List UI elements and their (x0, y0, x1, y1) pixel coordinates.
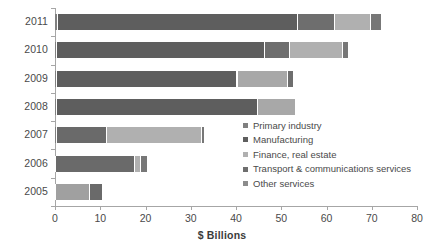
x-axis-tick (191, 206, 192, 210)
bar-segment[interactable] (371, 14, 381, 30)
x-axis-tick (146, 206, 147, 210)
chart-legend: Primary industryManufacturingFinance, re… (243, 118, 411, 191)
x-axis-tick-label: 60 (321, 212, 333, 224)
x-axis-tick (372, 206, 373, 210)
y-axis-category-label: 2010 (24, 43, 48, 55)
bar-segment[interactable] (57, 127, 107, 143)
y-axis-category-label: 2006 (24, 157, 48, 169)
legend-item-label: Transport & communications services (253, 164, 411, 174)
bar-segment[interactable] (238, 71, 288, 87)
y-axis-tick (51, 36, 55, 37)
y-axis-category-label: 2007 (24, 128, 48, 140)
y-axis-tick (51, 93, 55, 94)
legend-swatch-icon (243, 152, 248, 157)
y-axis-tick (51, 8, 55, 9)
x-axis-tick-label: 70 (366, 212, 378, 224)
bar-segment[interactable] (90, 184, 102, 200)
bar-segment[interactable] (298, 14, 335, 30)
legend-item[interactable]: Other services (243, 176, 411, 191)
legend-item-label: Manufacturing (253, 135, 313, 145)
x-axis-tick (417, 206, 418, 210)
y-axis-category-label: 2011 (25, 15, 48, 27)
y-axis-category-label: 2009 (24, 72, 48, 84)
bar-segment[interactable] (107, 127, 202, 143)
x-axis-tick (55, 206, 56, 210)
legend-swatch-icon (243, 137, 248, 142)
legend-item[interactable]: Finance, real estate (243, 147, 411, 162)
x-axis-tick-label: 10 (94, 212, 106, 224)
bar-segment[interactable] (56, 184, 89, 200)
x-axis-tick (100, 206, 101, 210)
bar-segment[interactable] (56, 156, 135, 172)
x-axis-title: $ Billions (0, 229, 430, 241)
stacked-bar[interactable] (55, 156, 147, 172)
bar-segment[interactable] (258, 99, 295, 115)
legend-item-label: Finance, real estate (253, 150, 336, 160)
stacked-bar[interactable] (55, 42, 348, 58)
stacked-bar[interactable] (55, 14, 381, 30)
legend-swatch-icon (243, 181, 248, 186)
bar-segment[interactable] (57, 71, 237, 87)
x-axis-title-label: $ Billions (198, 229, 247, 241)
stacked-bar[interactable] (55, 99, 295, 115)
bar-segment[interactable] (58, 14, 298, 30)
stacked-bar-chart: 2011201020092008200720062005 01020304050… (0, 0, 430, 247)
bar-segment[interactable] (202, 127, 205, 143)
bar-segment[interactable] (57, 99, 257, 115)
x-axis-tick-label: 40 (230, 212, 242, 224)
legend-item-label: Other services (253, 179, 314, 189)
y-axis-category-label: 2008 (24, 100, 48, 112)
stacked-bar[interactable] (55, 184, 102, 200)
x-axis-tick-label: 50 (275, 212, 287, 224)
y-axis-tick (51, 121, 55, 122)
legend-item[interactable]: Transport & communications services (243, 162, 411, 177)
legend-item[interactable]: Manufacturing (243, 133, 411, 148)
x-axis-tick-label: 80 (411, 212, 423, 224)
x-axis-tick-label: 30 (185, 212, 197, 224)
bar-segment[interactable] (288, 71, 293, 87)
x-axis-tick (281, 206, 282, 210)
stacked-bar[interactable] (55, 127, 204, 143)
bar-segment[interactable] (335, 14, 371, 30)
bar-segment[interactable] (57, 42, 265, 58)
y-axis-tick (51, 178, 55, 179)
x-axis-tick (327, 206, 328, 210)
bar-segment[interactable] (265, 42, 290, 58)
x-axis-tick (236, 206, 237, 210)
bar-segment[interactable] (290, 42, 343, 58)
legend-item-label: Primary industry (253, 121, 322, 131)
y-axis-category-label: 2005 (24, 185, 48, 197)
stacked-bar[interactable] (55, 71, 293, 87)
bar-segment[interactable] (141, 156, 146, 172)
legend-item[interactable]: Primary industry (243, 118, 411, 133)
y-axis-tick (51, 149, 55, 150)
x-axis-tick-label: 0 (52, 212, 58, 224)
legend-swatch-icon (243, 167, 248, 172)
x-axis-tick-label: 20 (140, 212, 152, 224)
y-axis-tick (51, 65, 55, 66)
bar-segment[interactable] (343, 42, 348, 58)
legend-swatch-icon (243, 123, 248, 128)
